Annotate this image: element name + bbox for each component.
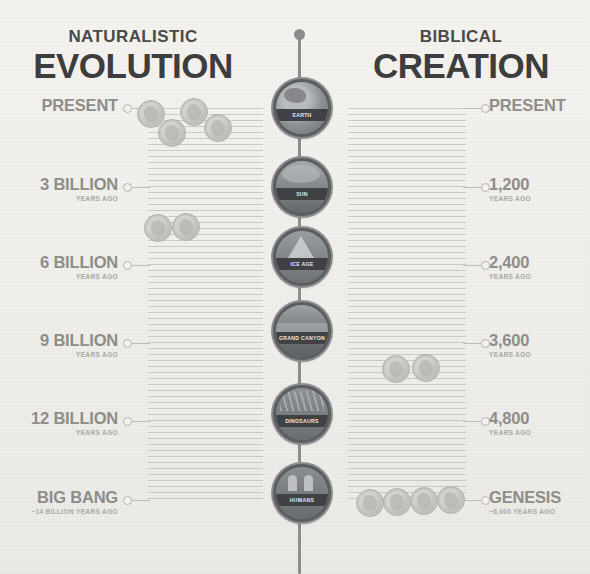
coin-evolution-2: [180, 98, 208, 126]
tick-leader: [463, 421, 481, 422]
tick-leader: [132, 421, 150, 422]
creation-tick-label: 2,400YEARS AGO: [489, 254, 531, 280]
coin-evolution-6: [172, 213, 200, 241]
tick-label-sublabel: YEARS AGO: [489, 274, 531, 281]
earth-medallion: EARTH: [273, 79, 331, 137]
coin-creation-2: [412, 354, 440, 382]
tick-leader: [463, 343, 481, 344]
tick-leader: [132, 500, 150, 501]
tick-label-title: GENESIS: [489, 489, 561, 506]
tick-leader: [132, 187, 150, 188]
tick-label-title: 9 BILLION: [40, 332, 118, 349]
tick-label-title: 12 BILLION: [31, 410, 118, 427]
creation-tick: [463, 104, 490, 113]
tick-dot: [123, 339, 132, 348]
dinosaurs-icon: [276, 388, 328, 440]
evolution-tick-label: 9 BILLIONYEARS AGO: [40, 332, 118, 358]
heading-evolution-kicker: NATURALISTIC: [8, 28, 258, 45]
medallion-caption: ICE AGE: [276, 258, 328, 270]
tick-label-sublabel: YEARS AGO: [489, 430, 531, 437]
tick-leader: [463, 500, 481, 501]
humans-icon: [276, 467, 328, 519]
tick-label-sublabel: YEARS AGO: [40, 352, 118, 359]
evolution-tick-label: PRESENT: [41, 97, 118, 114]
heading-evolution: NATURALISTIC EVOLUTION: [8, 28, 258, 85]
tick-label-title: 6 BILLION: [40, 254, 118, 271]
evolution-tick: [123, 417, 150, 426]
tick-label-sublabel: ~14 BILLION YEARS AGO: [31, 509, 118, 516]
evolution-tick: [123, 261, 150, 270]
evolution-tick-label: BIG BANG~14 BILLION YEARS AGO: [31, 489, 118, 515]
ice-age-medallion: ICE AGE: [273, 228, 331, 286]
creation-tick: [463, 339, 490, 348]
grand-canyon-medallion: GRAND CANYON: [273, 302, 331, 360]
coin-evolution-3: [158, 119, 186, 147]
coin-creation-6: [437, 486, 465, 514]
creation-tick-label: GENESIS~6,000 YEARS AGO: [489, 489, 561, 515]
hatch-right: [348, 108, 466, 504]
creation-tick: [463, 261, 490, 270]
tick-label-title: PRESENT: [489, 97, 566, 114]
coin-creation-1: [382, 355, 410, 383]
tick-label-title: PRESENT: [41, 97, 118, 114]
sun-icon: [276, 161, 328, 213]
tick-leader: [132, 343, 150, 344]
evolution-tick: [123, 496, 150, 505]
infographic-canvas: NATURALISTIC EVOLUTION BIBLICAL CREATION…: [0, 0, 590, 574]
heading-creation-title: CREATION: [338, 48, 584, 85]
tick-dot: [123, 183, 132, 192]
coin-creation-3: [356, 489, 384, 517]
medallion-caption: EARTH: [276, 109, 328, 121]
humans-medallion: HUMANS: [273, 464, 331, 522]
tick-leader: [463, 108, 481, 109]
tick-dot: [123, 261, 132, 270]
medallion-caption: GRAND CANYON: [276, 332, 328, 344]
creation-tick: [463, 417, 490, 426]
creation-tick-label: 4,800YEARS AGO: [489, 410, 531, 436]
evolution-tick-label: 6 BILLIONYEARS AGO: [40, 254, 118, 280]
tick-leader: [463, 265, 481, 266]
coin-creation-4: [383, 488, 411, 516]
tick-leader: [132, 265, 150, 266]
creation-tick-label: 3,600YEARS AGO: [489, 332, 531, 358]
coin-evolution-5: [144, 214, 172, 242]
grand-canyon-icon: [276, 305, 328, 357]
sun-medallion: SUN: [273, 158, 331, 216]
medallion-caption: SUN: [276, 188, 328, 200]
tick-label-title: 2,400: [489, 254, 531, 271]
evolution-tick-label: 3 BILLIONYEARS AGO: [40, 176, 118, 202]
coin-evolution-4: [204, 114, 232, 142]
medallion-caption: DINOSAURS: [276, 415, 328, 427]
tick-label-title: 3,600: [489, 332, 531, 349]
hatch-left: [148, 108, 263, 504]
dinosaurs-medallion: DINOSAURS: [273, 385, 331, 443]
creation-tick-label: 1,200YEARS AGO: [489, 176, 531, 202]
creation-tick: [463, 183, 490, 192]
tick-label-sublabel: ~6,000 YEARS AGO: [489, 509, 561, 516]
tick-leader: [463, 187, 481, 188]
tick-label-title: 1,200: [489, 176, 531, 193]
tick-label-sublabel: YEARS AGO: [40, 196, 118, 203]
tick-label-sublabel: YEARS AGO: [40, 274, 118, 281]
creation-tick-label: PRESENT: [489, 97, 566, 114]
evolution-tick: [123, 339, 150, 348]
evolution-tick: [123, 183, 150, 192]
tick-label-sublabel: YEARS AGO: [31, 430, 118, 437]
tick-label-title: 3 BILLION: [40, 176, 118, 193]
heading-evolution-title: EVOLUTION: [8, 48, 258, 85]
tick-label-title: BIG BANG: [31, 489, 118, 506]
tick-label-sublabel: YEARS AGO: [489, 352, 531, 359]
medallion-caption: HUMANS: [276, 494, 328, 506]
tick-dot: [123, 104, 132, 113]
tick-label-title: 4,800: [489, 410, 531, 427]
earth-icon: [276, 82, 328, 134]
coin-creation-5: [410, 487, 438, 515]
heading-creation: BIBLICAL CREATION: [338, 28, 584, 85]
creation-tick: [463, 496, 490, 505]
evolution-tick-label: 12 BILLIONYEARS AGO: [31, 410, 118, 436]
tick-dot: [123, 417, 132, 426]
tick-dot: [123, 496, 132, 505]
tick-label-sublabel: YEARS AGO: [489, 196, 531, 203]
heading-creation-kicker: BIBLICAL: [338, 28, 584, 45]
ice-age-icon: [276, 231, 328, 283]
